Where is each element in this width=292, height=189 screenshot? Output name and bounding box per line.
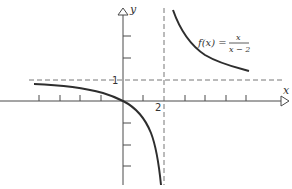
- x-tick-label-2: 2: [155, 102, 161, 113]
- y-tick-label-1: 1: [112, 75, 118, 86]
- function-graph: y x 1 2 f(x) = x x − 2: [0, 0, 292, 189]
- function-label: f(x) = x x − 2: [197, 33, 250, 54]
- function-label-lhs: f(x) =: [197, 37, 227, 48]
- function-label-numerator: x: [236, 33, 241, 42]
- y-axis-label: y: [129, 3, 137, 16]
- x-axis-arrow-icon: [281, 96, 289, 106]
- function-label-denominator: x − 2: [229, 45, 250, 54]
- y-axis-arrow-icon: [118, 8, 128, 15]
- x-ticks: [39, 95, 246, 101]
- curve-left-branch: [34, 84, 161, 185]
- x-axis-label: x: [283, 84, 290, 97]
